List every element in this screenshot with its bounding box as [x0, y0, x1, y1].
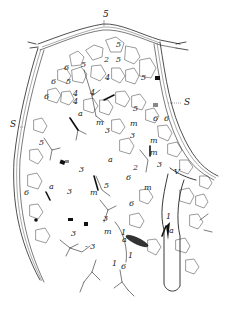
figure-label-l-4a: 4 — [104, 73, 110, 82]
figure-label-l-5g: 5 — [39, 138, 44, 147]
figure-label-l-1d: 1 — [112, 259, 117, 268]
figure-label-l-6h: 6 — [129, 199, 134, 208]
figure-label-l-6i: 6 — [121, 262, 126, 271]
figure-label-l-5a: 5 — [81, 60, 86, 69]
figure-label-l-1b: 1 — [128, 251, 133, 260]
figure-label-l-6g: 6 — [24, 188, 29, 197]
figure-label-l-5d: 5 — [141, 73, 146, 82]
figure-label-l-m5: m — [90, 188, 98, 197]
figure-label-l-3g: 3 — [71, 229, 76, 238]
figure-label-l-6e: 6 — [164, 114, 169, 123]
figure-label-l-6d: 6 — [153, 114, 158, 123]
figure-label-l-a2: a — [108, 155, 113, 164]
figure-label-l-6a: 6 — [64, 63, 69, 72]
figure-label-l-3e: 3 — [67, 187, 72, 196]
figure-label-l-3b: 3 — [130, 131, 135, 140]
figure-label-l-m3: m — [150, 136, 158, 145]
figure-label-l-3h: - 3 — [85, 242, 95, 251]
figure-label-l-a4: a — [122, 235, 127, 244]
figure-label-l-m1: m — [96, 118, 104, 127]
figure-label-l-m6: m — [144, 183, 152, 192]
illustration-drawing: 5SS5552456654464am35m366mm35a236V6a35mm6… — [0, 0, 230, 309]
figure-label-l-m4: m — [150, 148, 158, 157]
figure-label-l-5h: 5 — [104, 181, 109, 190]
figure-label-l-3c: 3 — [157, 160, 162, 169]
figure-label-l-a3: a — [49, 182, 54, 191]
figure-label-l-6f: 6 — [126, 173, 131, 182]
figure-label-l-3f: 3 — [103, 214, 108, 223]
figure-label-l-5c: 5 — [116, 55, 121, 64]
figure-label-l-5f: 5 — [133, 104, 138, 113]
figure-label-l-3a: 3 — [105, 126, 110, 135]
figure-label-l-1c: 1 — [166, 212, 171, 221]
figure-label-l-6c: 6 — [44, 92, 49, 101]
figure-label-l-2: 2 — [103, 55, 109, 64]
figure-label-s-left: S — [10, 119, 16, 129]
figure-label-l-5b: 5 — [116, 40, 121, 49]
figure-label-l-6b: 6 — [51, 77, 56, 86]
figure-label-l-3d: 3 — [79, 165, 84, 174]
figure-label-l-4d: 4 — [72, 97, 78, 106]
figure-label-s-right: S — [184, 97, 190, 107]
figure-label-l-a1: a — [78, 109, 83, 118]
figure-label-l-m2: m — [130, 119, 138, 128]
figure-label-l-4c: 4 — [89, 88, 95, 97]
figure-label-l-m7: m — [104, 227, 112, 236]
lung-lobule-illustration: 5SS5552456654464am35m366mm35a236V6a35mm6… — [0, 0, 230, 309]
figure-label-s-top: 5 — [103, 9, 109, 19]
figure-label-l-a5: a — [169, 226, 174, 235]
figure-label-l-5e: 5 — [66, 77, 71, 86]
figure-label-l-2b: 2 — [132, 163, 138, 172]
